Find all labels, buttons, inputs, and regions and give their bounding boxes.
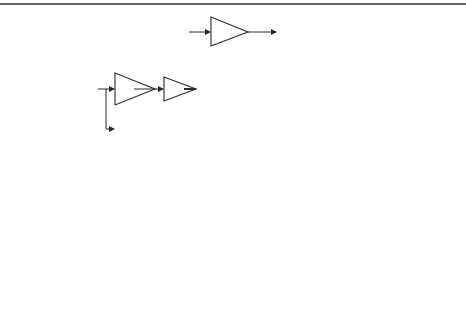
diagram-canvas [0,0,466,320]
gain-omega0 [211,17,248,46]
block-diagram-figure [0,0,466,320]
part-b [0,0,196,129]
part-a [0,0,276,46]
